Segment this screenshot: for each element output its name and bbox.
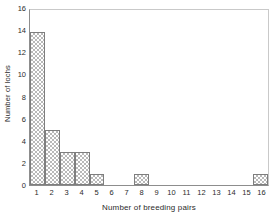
bar — [75, 152, 90, 185]
x-axis-tick-labels: 12345678910111213141516 — [29, 188, 269, 200]
y-axis-tick-labels: 0246810121416 — [12, 9, 26, 186]
plot-area — [30, 10, 268, 185]
plot-frame — [29, 9, 269, 186]
x-tick-label: 12 — [197, 188, 205, 197]
y-tick-label: 16 — [18, 5, 26, 13]
y-axis-title-text: Number of lochs — [3, 65, 12, 122]
x-tick-label: 5 — [94, 188, 98, 197]
x-tick-label: 6 — [109, 188, 113, 197]
x-tick-label: 1 — [34, 188, 38, 197]
histogram-chart: Number of lochs 0246810121416 1234567891… — [0, 0, 274, 222]
y-tick-label: 4 — [22, 138, 26, 146]
y-tick-label: 8 — [22, 94, 26, 102]
x-tick-label: 8 — [139, 188, 143, 197]
x-tick-label: 16 — [257, 188, 265, 197]
y-tick-label: 2 — [22, 160, 26, 168]
y-tick-label: 14 — [18, 27, 26, 35]
x-tick-label: 15 — [242, 188, 250, 197]
y-tick-label: 6 — [22, 116, 26, 124]
bar — [134, 174, 149, 185]
x-tick-label: 11 — [183, 188, 191, 197]
x-tick-label: 9 — [154, 188, 158, 197]
bar — [253, 174, 268, 185]
y-tick-label: 10 — [18, 71, 26, 79]
x-tick-label: 4 — [79, 188, 83, 197]
x-tick-label: 7 — [124, 188, 128, 197]
bar — [45, 130, 60, 185]
x-tick-label: 3 — [64, 188, 68, 197]
bar — [30, 32, 45, 185]
x-tick-label: 14 — [227, 188, 235, 197]
x-axis-title: Number of breeding pairs — [29, 203, 269, 212]
x-tick-label: 10 — [167, 188, 175, 197]
bar — [60, 152, 75, 185]
bar — [90, 174, 105, 185]
y-tick-label: 12 — [18, 49, 26, 57]
y-tick-label: 0 — [22, 182, 26, 190]
x-tick-label: 13 — [212, 188, 220, 197]
x-tick-label: 2 — [49, 188, 53, 197]
